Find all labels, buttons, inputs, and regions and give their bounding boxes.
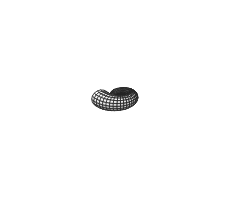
figure-canvas-container: 3D logarithmic-spiral seashell surface r… (0, 0, 252, 200)
nautilus-shell-render (0, 0, 252, 200)
